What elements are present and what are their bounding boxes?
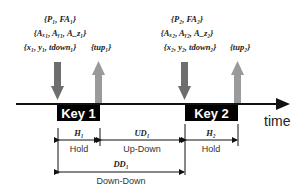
keystroke-timing-diagram: {P₁, FA₁} {Aₓ₁, Aᵧ₁, A_z₁} {x₁, y₁, tdow… — [0, 0, 305, 190]
h2-label: Hold — [202, 144, 221, 154]
h1-symbol: H₁ — [73, 128, 84, 138]
h2-symbol: H₂ — [205, 128, 216, 138]
key1-label: Key 1 — [61, 106, 96, 121]
timeline-arrowhead-icon — [276, 98, 290, 110]
hold-interval-1: H₁ Hold — [59, 128, 99, 154]
key1-down-arrow-icon — [51, 62, 64, 100]
key2-pressure-param: {P₂, FA₂} — [171, 14, 203, 24]
key2-up-param: {tup₂} — [230, 42, 250, 52]
ud1-label: Up-Down — [123, 144, 161, 154]
hold-interval-2: H₂ Hold — [186, 128, 237, 154]
dd1-label: Down-Down — [96, 176, 145, 186]
key1-position-param: {x₁, y₁, tdown₁} — [24, 42, 77, 52]
h1-label: Hold — [70, 144, 89, 154]
key1-up-param: {tup₁} — [91, 42, 111, 52]
key2-down-arrow-icon — [178, 62, 191, 100]
key1-up-arrow-icon — [92, 61, 105, 105]
time-label: time — [264, 113, 291, 129]
key2-position-param: {x₂, y₂, tdown₂} — [164, 42, 217, 52]
ud1-symbol: UD₁ — [134, 128, 149, 138]
key1-accel-param: {Aₓ₁, Aᵧ₁, A_z₁} — [34, 28, 87, 38]
key2-up-arrow-icon — [231, 61, 244, 105]
down-down-interval-1: DD₁ Down-Down — [59, 159, 184, 186]
dd1-symbol: DD₁ — [112, 159, 128, 169]
key2-accel-param: {Aₓ₂, Aᵧ₂, A_z₂} — [161, 28, 214, 38]
up-down-interval-1: UD₁ Up-Down — [101, 128, 184, 154]
key2-label: Key 2 — [194, 106, 229, 121]
key1-pressure-param: {P₁, FA₁} — [44, 14, 76, 24]
